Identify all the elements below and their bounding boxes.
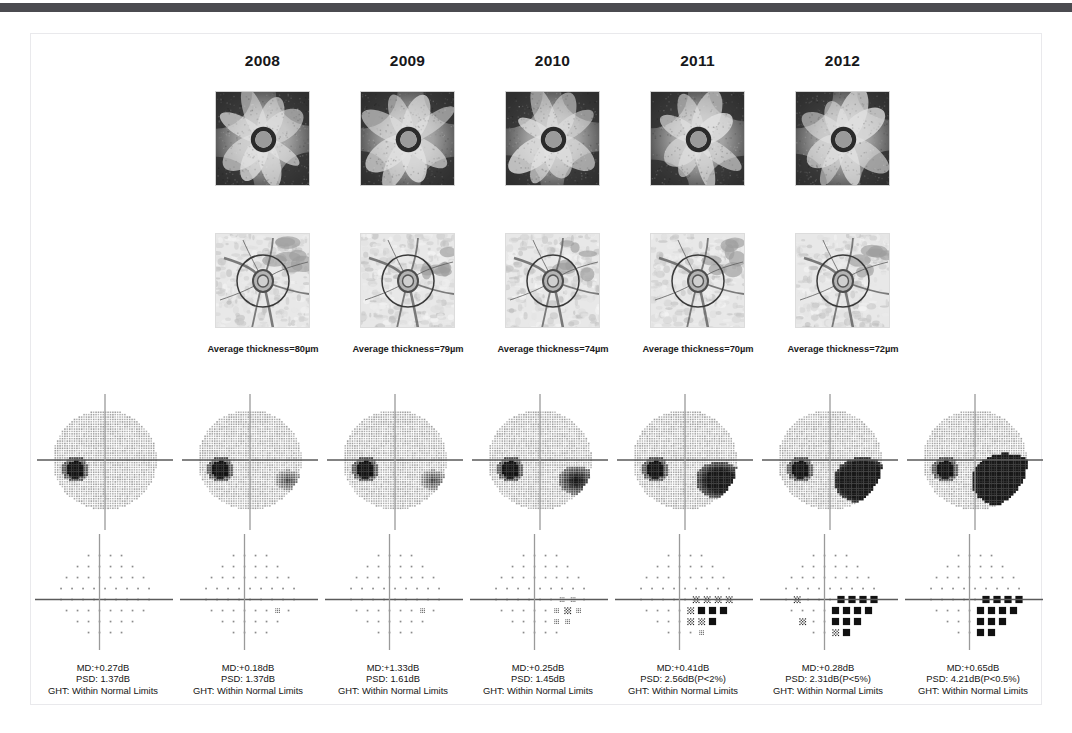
average-thickness-label-2010: Average thickness=74µm xyxy=(478,344,628,354)
visual-field-grayscale-6 xyxy=(757,392,899,532)
md-value-4: MD:+0.25dB xyxy=(463,662,613,673)
visual-field-stats-5: MD:+0.41dBPSD: 2.56dB(P<2%)GHT: Within N… xyxy=(608,662,758,696)
visual-field-stats-6: MD:+0.28dBPSD: 2.31dB(P<5%)GHT: Within N… xyxy=(753,662,903,696)
fundus-photo-2008 xyxy=(215,233,310,328)
fundus-photo-2012 xyxy=(795,233,890,328)
year-label-2012: 2012 xyxy=(795,52,890,70)
visual-field-stats-3: MD:+1.33dBPSD: 1.61dBGHT: Within Normal … xyxy=(318,662,468,696)
ght-value-2: GHT: Within Normal Limits xyxy=(173,685,323,696)
pattern-deviation-plot-3 xyxy=(322,532,464,654)
pattern-deviation-plot-4 xyxy=(467,532,609,654)
rnfl-thickness-map-2011 xyxy=(650,91,745,186)
visual-field-grayscale-1 xyxy=(32,392,174,532)
psd-value-3: PSD: 1.61dB xyxy=(318,673,468,684)
pattern-deviation-plot-7 xyxy=(902,532,1044,654)
visual-field-stats-7: MD:+0.65dBPSD: 4.21dB(P<0.5%)GHT: Within… xyxy=(898,662,1048,696)
year-label-2008: 2008 xyxy=(215,52,310,70)
fundus-photo-2011 xyxy=(650,233,745,328)
fundus-photo-2010 xyxy=(505,233,600,328)
visual-field-grayscale-2 xyxy=(177,392,319,532)
psd-value-7: PSD: 4.21dB(P<0.5%) xyxy=(898,673,1048,684)
rnfl-thickness-map-2010 xyxy=(505,91,600,186)
md-value-1: MD:+0.27dB xyxy=(28,662,178,673)
year-label-2009: 2009 xyxy=(360,52,455,70)
visual-field-stats-1: MD:+0.27dBPSD: 1.37dBGHT: Within Normal … xyxy=(28,662,178,696)
psd-value-5: PSD: 2.56dB(P<2%) xyxy=(608,673,758,684)
rnfl-thickness-map-2009 xyxy=(360,91,455,186)
psd-value-1: PSD: 1.37dB xyxy=(28,673,178,684)
year-label-2010: 2010 xyxy=(505,52,600,70)
md-value-7: MD:+0.65dB xyxy=(898,662,1048,673)
psd-value-2: PSD: 1.37dB xyxy=(173,673,323,684)
rnfl-thickness-map-2012 xyxy=(795,91,890,186)
rnfl-thickness-map-2008 xyxy=(215,91,310,186)
md-value-5: MD:+0.41dB xyxy=(608,662,758,673)
average-thickness-label-2012: Average thickness=72µm xyxy=(768,344,918,354)
psd-value-6: PSD: 2.31dB(P<5%) xyxy=(753,673,903,684)
visual-field-grayscale-5 xyxy=(612,392,754,532)
ght-value-3: GHT: Within Normal Limits xyxy=(318,685,468,696)
pattern-deviation-plot-6 xyxy=(757,532,899,654)
average-thickness-label-2009: Average thickness=79µm xyxy=(333,344,483,354)
ght-value-6: GHT: Within Normal Limits xyxy=(753,685,903,696)
ght-value-7: GHT: Within Normal Limits xyxy=(898,685,1048,696)
top-border-bar xyxy=(0,3,1072,12)
md-value-3: MD:+1.33dB xyxy=(318,662,468,673)
md-value-2: MD:+0.18dB xyxy=(173,662,323,673)
ght-value-4: GHT: Within Normal Limits xyxy=(463,685,613,696)
visual-field-grayscale-4 xyxy=(467,392,609,532)
average-thickness-label-2008: Average thickness=80µm xyxy=(188,344,338,354)
md-value-6: MD:+0.28dB xyxy=(753,662,903,673)
fundus-photo-2009 xyxy=(360,233,455,328)
psd-value-4: PSD: 1.45dB xyxy=(463,673,613,684)
visual-field-stats-2: MD:+0.18dBPSD: 1.37dBGHT: Within Normal … xyxy=(173,662,323,696)
ght-value-5: GHT: Within Normal Limits xyxy=(608,685,758,696)
visual-field-stats-4: MD:+0.25dBPSD: 1.45dBGHT: Within Normal … xyxy=(463,662,613,696)
pattern-deviation-plot-1 xyxy=(32,532,174,654)
average-thickness-label-2011: Average thickness=70µm xyxy=(623,344,773,354)
visual-field-grayscale-3 xyxy=(322,392,464,532)
year-label-2011: 2011 xyxy=(650,52,745,70)
visual-field-grayscale-7 xyxy=(902,392,1044,532)
pattern-deviation-plot-2 xyxy=(177,532,319,654)
pattern-deviation-plot-5 xyxy=(612,532,754,654)
ght-value-1: GHT: Within Normal Limits xyxy=(28,685,178,696)
